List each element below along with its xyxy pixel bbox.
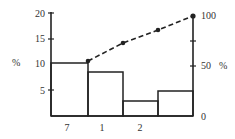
left-tick-10: 10 (35, 58, 45, 69)
left-axis-unit: % (12, 57, 20, 68)
bar-7 (51, 63, 88, 116)
x-label-1: 1 (100, 122, 105, 133)
bars (51, 63, 193, 116)
cumulative-line (88, 16, 193, 61)
right-tick-50: 50 (201, 60, 211, 71)
line-point (190, 13, 195, 18)
left-tick-15: 15 (35, 33, 45, 44)
x-label-7: 7 (65, 122, 70, 133)
bar-1 (88, 72, 123, 116)
line-point (121, 41, 126, 46)
right-tick-0: 0 (201, 111, 206, 122)
right-tick-100: 100 (201, 10, 216, 21)
x-label-2: 2 (138, 122, 143, 133)
left-tick-20: 20 (35, 8, 45, 19)
bar-2 (123, 101, 158, 116)
line-point (156, 28, 161, 33)
bar-4 (158, 91, 193, 116)
line-point (86, 59, 91, 64)
pareto-chart: 5 10 15 20 % 0 50 100 % 7 1 2 (0, 0, 235, 139)
right-axis-unit: % (219, 60, 227, 71)
left-tick-5: 5 (40, 85, 45, 96)
